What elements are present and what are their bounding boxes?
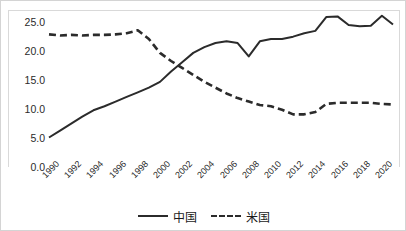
- chart-legend: 中国米国: [1, 202, 406, 230]
- x-axis-tick-labels: 1990199219941996199820002002200420062008…: [1, 167, 406, 207]
- series-line-中国: [49, 16, 393, 138]
- legend-label: 中国: [173, 208, 197, 225]
- legend-label: 米国: [246, 208, 270, 225]
- legend-swatch-solid: [138, 215, 168, 217]
- legend-swatch-dashed: [211, 215, 241, 217]
- legend-item-米国[interactable]: 米国: [211, 208, 270, 225]
- chart-container: 0.05.010.015.020.025.0 19901992199419961…: [0, 0, 406, 231]
- series-layer: [49, 16, 393, 138]
- legend-item-中国[interactable]: 中国: [138, 208, 197, 225]
